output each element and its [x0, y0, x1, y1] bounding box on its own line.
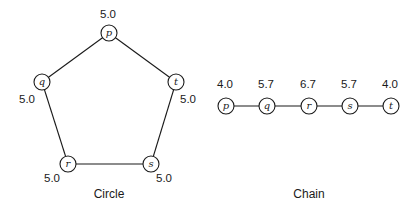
- chain-caption: Chain: [293, 188, 324, 200]
- circle-node-t-value: 5.0: [180, 94, 196, 106]
- chain-node-t-label: t: [389, 101, 393, 111]
- circle-nodes: [34, 25, 184, 172]
- circle-node-s-value: 5.0: [156, 173, 172, 185]
- chain-node-t-value: 4.0: [382, 79, 398, 91]
- circle-edges: [42, 33, 176, 164]
- circle-node-q-label: q: [39, 77, 45, 87]
- circle-node-r-label: r: [66, 159, 71, 169]
- circle-node-p-value: 5.0: [100, 9, 116, 21]
- chain-node-s-label: s: [347, 101, 352, 111]
- circle-node-q-value: 5.0: [19, 94, 35, 106]
- circle-node-t-label: t: [174, 77, 178, 87]
- chain-node-r-value: 6.7: [300, 79, 316, 91]
- chain-node-s-value: 5.7: [341, 79, 357, 91]
- chain-node-q-value: 5.7: [258, 79, 274, 91]
- network-diagram: [0, 0, 418, 213]
- chain-node-p-value: 4.0: [217, 79, 233, 91]
- circle-node-r-value: 5.0: [44, 173, 60, 185]
- circle-node-s-label: s: [148, 159, 153, 169]
- circle-caption: Circle: [94, 188, 125, 200]
- chain-node-p-label: p: [223, 101, 229, 111]
- chain-node-r-label: r: [307, 101, 312, 111]
- chain-node-q-label: q: [264, 101, 270, 111]
- circle-node-p-label: p: [106, 28, 112, 38]
